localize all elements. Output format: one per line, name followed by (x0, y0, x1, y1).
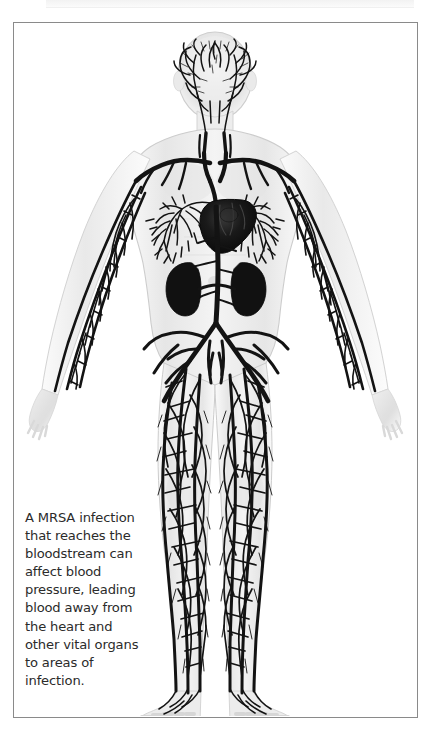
caption-text: A MRSA infection that reaches the bloods… (25, 509, 143, 690)
page-top-strip (46, 0, 414, 8)
descending-aorta (216, 207, 218, 323)
hand-left-shape (28, 389, 58, 439)
hand-right-shape (372, 389, 402, 439)
page-root: A MRSA infection that reaches the bloods… (0, 0, 438, 738)
illustration-panel: A MRSA infection that reaches the bloods… (13, 22, 418, 718)
kidney-left (166, 263, 201, 316)
